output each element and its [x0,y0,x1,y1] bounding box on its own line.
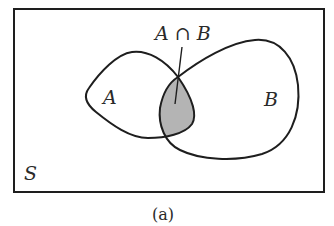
venn-diagram: A ∩ B A B S (a) [0,0,334,226]
universe-label: S [24,162,37,184]
set-b-label: B [263,88,278,110]
intersection-label: A ∩ B [153,22,211,44]
figure-caption: (a) [152,205,174,224]
set-a-label: A [101,86,117,108]
